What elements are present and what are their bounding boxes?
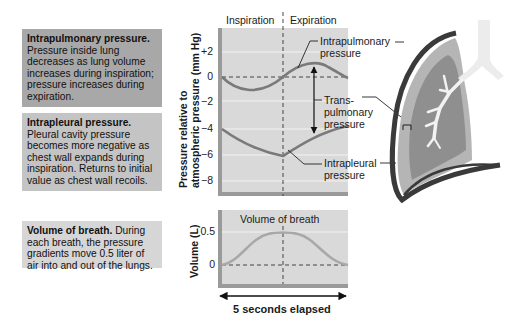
ytick: 0.5 bbox=[195, 225, 215, 237]
expiration-label: Expiration bbox=[290, 14, 337, 26]
intrapleural-annotation-1: Intrapleural bbox=[324, 157, 377, 169]
ytick: −2 bbox=[193, 95, 213, 107]
ytick: −4 bbox=[193, 122, 213, 134]
time-axis-label: 5 seconds elapsed bbox=[233, 303, 331, 315]
ytick: −6 bbox=[193, 148, 213, 160]
intrapulmonary-annotation-1: Intrapulmonary bbox=[320, 35, 390, 47]
ytick: +2 bbox=[193, 45, 213, 57]
inspiration-label: Inspiration bbox=[226, 14, 274, 26]
pressure-ylabel-line1: Pressure relative to bbox=[177, 91, 189, 188]
transpulmonary-annotation-2: pulmonary bbox=[324, 106, 373, 118]
ytick: 0 bbox=[195, 258, 215, 270]
transpulmonary-annotation-3: pressure bbox=[324, 118, 365, 130]
ytick: −8 bbox=[193, 174, 213, 186]
diagram-graphics bbox=[0, 0, 512, 327]
intrapulmonary-annotation-2: pressure bbox=[320, 47, 361, 59]
ytick: 0 bbox=[193, 70, 213, 82]
transpulmonary-annotation-1: Trans- bbox=[324, 94, 354, 106]
intrapleural-annotation-2: pressure bbox=[324, 169, 365, 181]
volume-chart-title: Volume of breath bbox=[240, 213, 319, 225]
lung-illustration bbox=[392, 20, 504, 200]
